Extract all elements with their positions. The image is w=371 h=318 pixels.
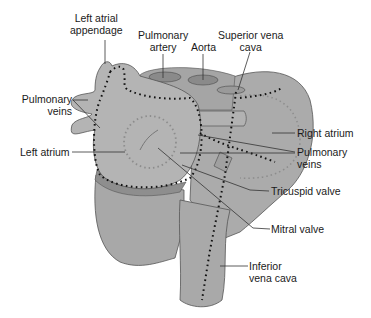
superior-vena-cava-shape (217, 86, 245, 94)
label-inferior-vena-cava: Inferior vena cava (249, 260, 297, 284)
label-right-atrium: Right atrium (297, 127, 354, 139)
label-line: Pulmonary (297, 146, 347, 158)
label-left-atrium: Left atrium (20, 146, 70, 158)
label-pulmonary-artery: Pulmonary artery (138, 29, 188, 53)
label-line: appendage (70, 24, 123, 36)
right-pulmonary-vein-tube (198, 111, 246, 126)
label-line: Pulmonary (138, 29, 188, 41)
label-pulmonary-veins-right: Pulmonary veins (297, 146, 347, 170)
label-line: veins (20, 105, 72, 117)
label-line: cava (218, 41, 283, 53)
label-line: artery (138, 41, 188, 53)
label-line: Pulmonary (20, 93, 72, 105)
label-tricuspid-valve: Tricuspid valve (271, 185, 341, 197)
label-line: vena cava (249, 272, 297, 284)
label-aorta: Aorta (191, 41, 216, 53)
inferior-vena-cava-shape (179, 200, 230, 307)
label-mitral-valve: Mitral valve (271, 223, 324, 235)
label-line: Superior vena (218, 29, 283, 41)
label-line: Left atrial (70, 12, 123, 24)
label-pulmonary-veins-left: Pulmonary veins (20, 93, 72, 117)
label-line: Inferior (249, 260, 297, 272)
label-superior-vena-cava: Superior vena cava (218, 29, 283, 53)
label-line: veins (297, 158, 347, 170)
label-left-atrial-appendage: Left atrial appendage (70, 12, 123, 36)
